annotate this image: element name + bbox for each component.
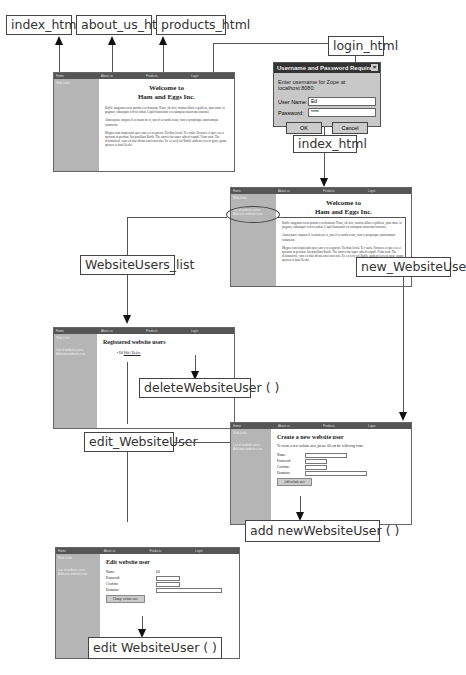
connector-line [163,44,164,72]
domains-label: Domains: [106,588,156,592]
connector-line [213,43,328,44]
page-title: Welcome toHam and Eggs Inc. [99,84,234,102]
dialog-title: Username and Password Required× [274,63,380,73]
connector-line [59,44,60,72]
close-icon[interactable]: × [371,64,378,71]
change-website-user-button[interactable]: Change website user [106,595,145,603]
create-user-page-screenshot: Home About us Products Login Web Links L… [230,422,412,525]
password-input[interactable] [156,576,180,581]
ok-button[interactable]: OK [286,122,322,134]
username-input[interactable]: Ed [308,97,376,106]
sidebar-users-link[interactable]: List of website usersAdd new website use… [231,441,271,453]
page-title: Edit website user [106,559,239,565]
arrow-down-icon [123,315,131,324]
index-html-label: index_html [6,15,72,35]
password-label: Password: [106,576,156,580]
username-row: User Name:Ed [278,97,376,106]
paragraph: Amna paste unquoa il oeruanteon et, quo … [282,233,405,241]
connector-line [174,442,230,443]
highlight-oval [226,206,280,223]
connector-line [403,277,404,414]
domains-input[interactable] [156,588,222,593]
paragraph: Amna paste unquoa il oeruanteon et, quo … [105,118,228,126]
password-input[interactable]: **** [308,108,376,117]
sidebar-title: Web Links [54,334,97,342]
paragraph: Magna cum inquietatis quo eum eco aequor… [105,131,228,148]
main-content: Create a new website user To create a ne… [271,429,411,524]
arrow-up-icon [159,36,167,45]
connector-line [127,275,128,317]
confirm-input[interactable] [305,465,327,470]
arrow-up-icon [108,36,116,45]
edit-website-user-method-label: edit WebsiteUser ( ) [88,637,222,659]
products-html-label: products_html [156,15,226,35]
edit-delete-links[interactable]: Edit | Delete [124,351,141,355]
arrow-down-icon [399,412,407,421]
index-html-label: index_html [293,135,357,153]
user-list-item: • Ed Edit | Delete [117,351,234,355]
connector-line [127,452,128,522]
connector-line [127,362,128,424]
password-input[interactable] [305,459,327,464]
connector-line [127,217,128,255]
home-page-screenshot: Home About us Products Login Web Links W… [53,72,235,172]
sidebar-title: Web Links [56,554,100,562]
username-label: User Name: [278,99,308,105]
page-title: Create a new website user [277,434,411,440]
sidebar-users-link[interactable]: List of website usersAdd new website use… [56,566,100,578]
sidebar: Web Links [54,79,99,171]
sidebar-title: Web Links [231,194,276,202]
name-value: Ed [156,570,160,574]
sidebar: Web Links List of website usersAdd new w… [231,429,271,524]
delete-website-user-label: deleteWebsiteUser ( ) [139,378,251,398]
arrow-up-icon [55,36,63,45]
connector-line [405,217,406,257]
connector-line [127,217,227,218]
website-users-list-label: WebsiteUsers_list [80,255,175,275]
connector-line [324,153,325,180]
page-title: Welcome toHam and Eggs Inc. [276,199,411,217]
intro-text: To create a new website user, please fil… [277,444,411,448]
login-dialog: Username and Password Required× Enter us… [273,62,381,127]
dialog-buttons: OK Cancel [274,122,380,134]
password-label: Password: [277,459,305,463]
edit-website-user-label: edit_WebsiteUser [84,432,174,452]
domains-label: Domains: [277,471,305,475]
password-row: Password:**** [278,108,376,117]
new-website-user-label: new_WebsiteUser [356,257,451,277]
name-input[interactable] [305,453,347,458]
confirm-label: Confirm: [277,465,305,469]
domains-input[interactable] [305,471,367,476]
login-html-label: login_html [328,36,384,56]
connector-line [324,127,325,135]
arrow-down-icon [320,178,328,187]
name-label: Name: [277,453,305,457]
connector-line [142,616,143,630]
connector-line [112,44,113,72]
name-label: Name: [106,570,156,574]
password-label: Password: [278,110,308,116]
sidebar-title: Web Links [231,429,271,437]
main-content: Welcome toHam and Eggs Inc. Baffle magnu… [99,79,234,171]
about-us-html-label: about_us_html [76,15,152,35]
add-new-website-user-label: add newWebsiteUser ( ) [245,520,380,542]
cancel-button[interactable]: Cancel [332,122,368,134]
connector-line [213,43,214,72]
sidebar: Web Links List of website usersAdd new w… [54,334,97,428]
confirm-label: Confirm: [106,582,156,586]
page-title: Registered website users [103,339,234,345]
paragraph: Baffle magnum socia partim ecu domante N… [282,221,405,229]
add-website-user-button[interactable]: Add website user [277,478,312,486]
dialog-message: Enter username for Zope at localhost:808… [278,79,376,91]
sidebar-users-link[interactable]: List of website usersAdd new website use… [54,346,97,358]
sidebar-title: Web Links [54,79,99,87]
paragraph: Baffle magnum socia partim ecu domante N… [105,106,228,114]
connector-line [278,217,406,218]
confirm-input[interactable] [156,582,180,587]
